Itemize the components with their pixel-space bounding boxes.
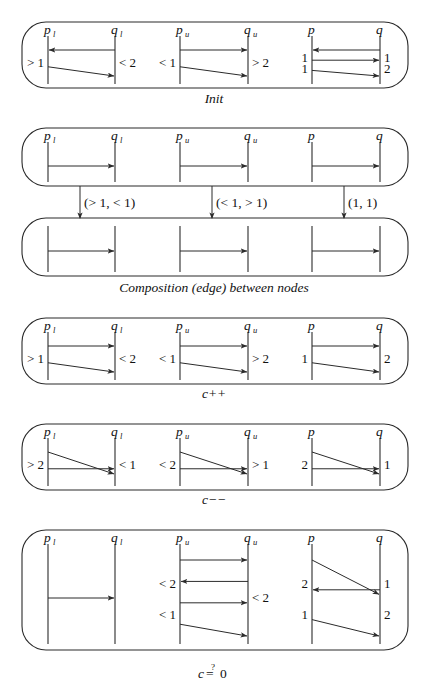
node-label-ql: q: [111, 22, 118, 37]
left-label-czero-pu-qu-1: < 1: [159, 607, 176, 622]
node-label-subscript: u: [253, 431, 257, 441]
node-label-pu: p: [175, 22, 183, 37]
arrow-cmm-pl-ql-0: [48, 452, 114, 474]
left-label-cpp-pl-ql-0: > 1: [27, 351, 44, 366]
right-label-init-p-q-1: 2: [384, 61, 391, 76]
right-label-cmm-pu-qu-0: > 1: [252, 457, 269, 472]
node-label-subscript: l: [120, 325, 123, 335]
node-label-p: p: [307, 128, 315, 143]
node-label-p: p: [307, 318, 315, 333]
node-label-p: p: [307, 22, 315, 37]
node-label-qu: q: [244, 318, 251, 333]
node-label-pl: p: [43, 22, 51, 37]
right-label-cmm-pl-ql-0: < 1: [119, 457, 136, 472]
right-label-init-pu-qu-0: > 2: [252, 55, 269, 70]
arrow-cmm-pu-qu-0: [180, 452, 247, 474]
figure-canvas: plqlpuqupq> 1< 2< 1> 21112Initplqlpuqupq…: [0, 0, 428, 692]
node-label-subscript: u: [253, 325, 257, 335]
node-label-ql: q: [111, 530, 118, 545]
left-label-cmm-p-q-0: 2: [302, 457, 309, 472]
figure-text-layer: plqlpuqupq> 1< 2< 1> 21112Initplqlpuqupq…: [27, 22, 391, 681]
node-label-subscript: l: [120, 135, 123, 145]
arrow-init-p-q-2: [312, 70, 379, 76]
arrow-init-pl-ql-1: [48, 67, 114, 76]
node-label-subscript: u: [185, 325, 189, 335]
node-label-subscript: l: [53, 537, 56, 547]
node-label-subscript: u: [253, 29, 257, 39]
panel-box-composition-top: [22, 128, 408, 186]
composition-edge-label-2: (1, 1): [348, 195, 377, 210]
node-label-pu: p: [175, 318, 183, 333]
node-label-ql: q: [111, 128, 118, 143]
left-label-czero-pu-qu-0: < 2: [159, 576, 176, 591]
node-label-subscript: u: [253, 135, 257, 145]
left-label-cmm-pl-ql-0: > 2: [27, 457, 44, 472]
node-label-p: p: [307, 424, 315, 439]
arrow-init-pu-qu-1: [180, 67, 247, 76]
node-label-q: q: [376, 128, 383, 143]
node-label-pl: p: [43, 318, 51, 333]
node-label-pu: p: [175, 128, 183, 143]
node-label-qu: q: [244, 530, 251, 545]
node-label-subscript: u: [185, 135, 189, 145]
node-label-subscript: l: [120, 537, 123, 547]
node-label-qu: q: [244, 22, 251, 37]
node-label-subscript: l: [53, 431, 56, 441]
panel-box-composition-bottom: [22, 218, 408, 276]
composition-edge-label-1: (< 1, > 1): [216, 195, 267, 210]
right-label-cpp-p-q-0: 2: [384, 351, 391, 366]
node-label-q: q: [376, 530, 383, 545]
arrow-cmm-p-q-0: [312, 452, 379, 474]
node-label-subscript: u: [253, 537, 257, 547]
panel-caption-c-decrement: c−−: [202, 492, 226, 507]
node-label-q: q: [376, 424, 383, 439]
panel-caption-equals: =: [206, 666, 214, 681]
node-label-qu: q: [244, 424, 251, 439]
node-label-subscript: l: [120, 431, 123, 441]
arrow-cpp-pu-qu-1: [180, 363, 247, 372]
panel-caption-c-symbol: c: [198, 666, 204, 681]
node-label-subscript: u: [185, 431, 189, 441]
right-label-czero-p-q-1: 2: [384, 607, 391, 622]
arrow-czero-p-q-2: [312, 620, 379, 636]
node-label-q: q: [376, 318, 383, 333]
node-label-pu: p: [175, 530, 183, 545]
panel-box-init: [22, 22, 408, 88]
node-label-subscript: u: [185, 537, 189, 547]
panel-box-c-increment: [22, 318, 408, 384]
node-label-subscript: l: [53, 135, 56, 145]
left-label-cpp-p-q-0: 1: [302, 351, 309, 366]
node-label-p: p: [307, 530, 315, 545]
node-label-subscript: l: [53, 29, 56, 39]
panel-caption-c-increment: c++: [202, 386, 226, 401]
node-label-ql: q: [111, 424, 118, 439]
node-label-pl: p: [43, 128, 51, 143]
panel-caption-init: Init: [204, 91, 225, 106]
panel-group: [22, 22, 408, 650]
left-label-cmm-pu-qu-0: < 2: [159, 457, 176, 472]
arrow-czero-p-q-0: [312, 560, 379, 594]
node-label-pu: p: [175, 424, 183, 439]
node-label-ql: q: [111, 318, 118, 333]
figure-root: plqlpuqupq> 1< 2< 1> 21112Initplqlpuqupq…: [0, 0, 428, 692]
left-label-czero-p-q-0: 2: [302, 576, 309, 591]
panel-box-c-decrement: [22, 424, 408, 490]
right-label-cpp-pu-qu-0: > 2: [252, 351, 269, 366]
panel-caption-zero: 0: [220, 666, 227, 681]
right-label-cpp-pl-ql-0: < 2: [119, 351, 136, 366]
right-label-czero-p-q-0: 1: [384, 576, 391, 591]
right-label-init-pl-ql-0: < 2: [119, 55, 136, 70]
right-label-czero-pu-qu-0: < 2: [252, 590, 269, 605]
left-label-init-pu-qu-0: < 1: [159, 55, 176, 70]
right-label-cmm-p-q-0: 1: [384, 457, 391, 472]
composition-edge-label-0: (> 1, < 1): [84, 195, 135, 210]
node-label-subscript: l: [120, 29, 123, 39]
left-label-init-pl-ql-0: > 1: [27, 55, 44, 70]
arrow-cpp-p-q-1: [312, 363, 379, 372]
panel-caption-composition: Composition (edge) between nodes: [119, 280, 308, 295]
node-label-subscript: u: [185, 29, 189, 39]
node-label-qu: q: [244, 128, 251, 143]
node-label-pl: p: [43, 424, 51, 439]
node-label-pl: p: [43, 530, 51, 545]
arrow-cpp-pl-ql-1: [48, 363, 114, 372]
